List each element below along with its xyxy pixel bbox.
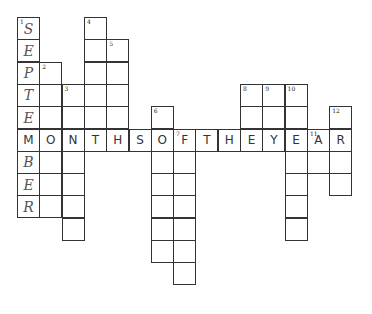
crossword-cell[interactable]: P xyxy=(17,62,40,85)
crossword-cell[interactable] xyxy=(329,151,352,174)
crossword-cell[interactable]: 10 xyxy=(285,84,308,107)
crossword-cell[interactable] xyxy=(106,62,129,85)
crossword-cell[interactable]: E xyxy=(17,173,40,196)
crossword-cell[interactable] xyxy=(329,173,352,196)
crossword-cell[interactable]: 4 xyxy=(84,17,107,40)
crossword-cell[interactable] xyxy=(39,84,62,107)
crossword-cell[interactable] xyxy=(173,195,196,218)
crossword-cell[interactable]: 7F xyxy=(173,129,196,152)
crossword-cell[interactable] xyxy=(151,151,174,174)
cell-letter: E xyxy=(23,178,33,192)
crossword-cell[interactable] xyxy=(151,218,174,241)
crossword-cell[interactable] xyxy=(285,195,308,218)
crossword-cell[interactable]: T xyxy=(195,129,218,152)
crossword-cell[interactable] xyxy=(39,173,62,196)
crossword-cell[interactable]: T xyxy=(17,84,40,107)
crossword-cell[interactable]: 12 xyxy=(329,106,352,129)
crossword-cell[interactable]: E xyxy=(17,106,40,129)
crossword-cell[interactable] xyxy=(262,106,285,129)
crossword-cell[interactable] xyxy=(62,106,85,129)
cell-letter: E xyxy=(23,111,33,125)
crossword-cell[interactable] xyxy=(39,195,62,218)
crossword-cell[interactable] xyxy=(151,195,174,218)
clue-number: 3 xyxy=(65,85,69,92)
clue-number: 6 xyxy=(154,107,158,114)
crossword-cell[interactable] xyxy=(84,84,107,107)
crossword-cell[interactable]: O xyxy=(151,129,174,152)
crossword-cell[interactable]: 5 xyxy=(106,39,129,62)
crossword-cell[interactable]: E xyxy=(285,129,308,152)
cell-letter: S xyxy=(24,22,34,36)
crossword-cell[interactable] xyxy=(285,218,308,241)
clue-number: 4 xyxy=(87,18,91,25)
crossword-cell[interactable]: S xyxy=(129,129,152,152)
crossword-cell[interactable] xyxy=(151,173,174,196)
clue-number: 10 xyxy=(288,85,296,92)
crossword-cell[interactable] xyxy=(39,106,62,129)
cell-letter: F xyxy=(181,134,188,146)
clue-number: 12 xyxy=(332,107,340,114)
cell-letter: E xyxy=(248,134,256,146)
crossword-cell[interactable]: E xyxy=(17,39,40,62)
cell-letter: S xyxy=(136,134,144,146)
crossword-cell[interactable] xyxy=(106,84,129,107)
clue-number: 8 xyxy=(243,85,247,92)
crossword-cell[interactable] xyxy=(173,262,196,285)
cell-letter: T xyxy=(203,134,210,146)
clue-number: 11 xyxy=(310,130,318,137)
crossword-cell[interactable]: N xyxy=(62,129,85,152)
cell-letter: M xyxy=(23,134,33,146)
clue-number: 2 xyxy=(42,63,46,70)
clue-number: 1 xyxy=(20,18,24,25)
crossword-cell[interactable]: 6 xyxy=(151,106,174,129)
cell-letter: B xyxy=(23,155,33,169)
cell-letter: H xyxy=(225,134,234,146)
cell-letter: O xyxy=(46,134,55,146)
crossword-cell[interactable] xyxy=(173,151,196,174)
crossword-cell[interactable] xyxy=(106,106,129,129)
crossword-cell[interactable]: R xyxy=(17,195,40,218)
crossword-cell[interactable] xyxy=(84,106,107,129)
crossword-cell[interactable] xyxy=(151,240,174,263)
crossword-cell[interactable]: 8 xyxy=(240,84,263,107)
crossword-cell[interactable]: M xyxy=(17,129,40,152)
cell-letter: T xyxy=(24,88,33,102)
cell-letter: H xyxy=(113,134,122,146)
crossword-cell[interactable]: O xyxy=(39,129,62,152)
cell-letter: E xyxy=(292,134,300,146)
crossword-cell[interactable]: 2 xyxy=(39,62,62,85)
crossword-cell[interactable]: R xyxy=(329,129,352,152)
cell-letter: P xyxy=(24,66,33,80)
crossword-cell[interactable] xyxy=(173,240,196,263)
crossword-cell[interactable] xyxy=(62,173,85,196)
crossword-cell[interactable] xyxy=(285,173,308,196)
crossword-cell[interactable] xyxy=(84,62,107,85)
crossword-cell[interactable] xyxy=(285,106,308,129)
crossword-cell[interactable]: B xyxy=(17,151,40,174)
crossword-cell[interactable]: 1S xyxy=(17,17,40,40)
crossword-cell[interactable]: 11A xyxy=(307,129,330,152)
cell-letter: R xyxy=(23,200,34,214)
crossword-cell[interactable] xyxy=(173,218,196,241)
crossword-cell[interactable] xyxy=(173,173,196,196)
crossword-cell[interactable] xyxy=(285,151,308,174)
crossword-cell[interactable] xyxy=(240,106,263,129)
crossword-cell[interactable]: T xyxy=(84,129,107,152)
crossword-cell[interactable] xyxy=(39,151,62,174)
clue-number: 9 xyxy=(265,85,269,92)
crossword-cell[interactable] xyxy=(62,195,85,218)
crossword-cell[interactable] xyxy=(62,218,85,241)
crossword-cell[interactable]: H xyxy=(106,129,129,152)
crossword-grid: 1SEPTEMBER2O3N4T5HS6O7FTH8E9Y10E11A12R xyxy=(0,0,372,314)
crossword-cell[interactable]: H xyxy=(218,129,241,152)
crossword-cell[interactable]: Y xyxy=(262,129,285,152)
crossword-cell[interactable] xyxy=(307,151,330,174)
crossword-cell[interactable] xyxy=(84,39,107,62)
cell-letter: T xyxy=(92,134,99,146)
crossword-cell[interactable]: 3 xyxy=(62,84,85,107)
clue-number: 5 xyxy=(109,40,113,47)
cell-letter: N xyxy=(69,134,78,146)
crossword-cell[interactable]: 9 xyxy=(262,84,285,107)
crossword-cell[interactable]: E xyxy=(240,129,263,152)
crossword-cell[interactable] xyxy=(62,151,85,174)
